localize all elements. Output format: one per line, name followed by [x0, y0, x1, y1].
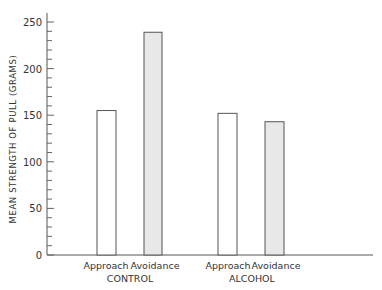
bar-alcohol-avoidance	[265, 122, 284, 255]
y-tick-label-150: 150	[23, 110, 42, 121]
group-label-alcohol: ALCOHOL	[229, 273, 276, 284]
y-tick-label-200: 200	[23, 64, 42, 75]
y-tick-label-100: 100	[23, 157, 42, 168]
category-label-control-approach: Approach	[83, 260, 128, 271]
bar-control-avoidance	[144, 32, 162, 255]
bar-control-approach	[97, 111, 116, 255]
y-tick-label-50: 50	[29, 203, 42, 214]
y-tick-label-0: 0	[36, 250, 42, 261]
bar-alcohol-approach	[218, 113, 237, 255]
y-axis-label: MEAN STRENGTH OF PULL (GRAMS)	[8, 55, 18, 224]
bar-chart: MEAN STRENGTH OF PULL (GRAMS) 0 50 100 1…	[0, 0, 382, 290]
y-axis-ticks	[47, 22, 54, 255]
group-label-control: CONTROL	[107, 273, 154, 284]
category-label-control-avoidance: Avoidance	[131, 260, 180, 271]
y-tick-label-250: 250	[23, 17, 42, 28]
category-label-alcohol-approach: Approach	[205, 260, 250, 271]
category-label-alcohol-avoidance: Avoidance	[252, 260, 301, 271]
y-tick-labels: 0 50 100 150 200 250	[23, 17, 42, 261]
bars	[97, 32, 284, 255]
